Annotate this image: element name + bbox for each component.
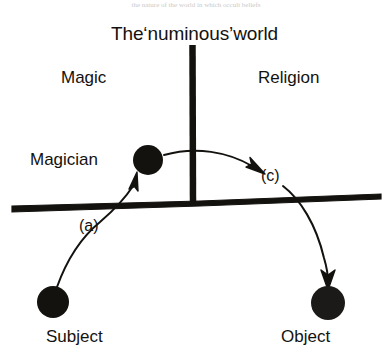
horizontal-baseline (12, 194, 381, 212)
region-label-religion: Religion (258, 69, 319, 86)
arrow-b-path (164, 151, 252, 166)
vertical-divider-line (193, 45, 194, 206)
arrow-label-a: (a) (79, 218, 99, 234)
node-magician-dot (133, 145, 163, 175)
node-label-magician: Magician (30, 151, 98, 168)
arrow-label-c: (c) (261, 168, 280, 184)
node-object-dot (311, 286, 345, 320)
arrow-a-head (129, 172, 138, 191)
node-label-subject: Subject (46, 328, 103, 345)
diagram-title: The‘numinous’world (0, 24, 389, 43)
diagram-canvas (0, 0, 389, 355)
node-subject-dot (37, 286, 69, 318)
figure-diagram: the nature of the world in which occult … (0, 0, 389, 355)
node-label-object: Object (281, 328, 330, 345)
arrow-a-path (57, 186, 133, 287)
region-label-magic: Magic (61, 69, 106, 86)
